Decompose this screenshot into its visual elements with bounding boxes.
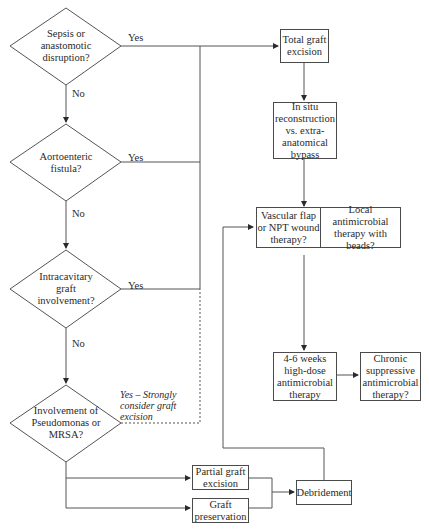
decision-aortoenteric: Aortoenteric fistula? [30,150,102,176]
box-vascular-flap: Vascular flap or NPT wound therapy? [256,207,321,248]
box-chronic-suppressive: Chronic suppressive antimicrobial therap… [360,352,421,401]
yes-label-1: Yes [128,32,143,44]
decision-intracavitary: Intracavitary graft involvement? [30,270,102,308]
yes-label-2: Yes [128,152,143,164]
box-graft-preservation: Graft preservation [192,498,249,523]
box-total-graft-excision: Total graft excision [280,29,329,63]
no-label-3: No [72,338,85,350]
box-partial-graft-excision: Partial graft excision [192,465,249,490]
yes-label-3: Yes [128,280,143,292]
no-label-2: No [72,208,85,220]
box-reconstruction: In situ reconstruction vs. extra-anatomi… [273,102,337,159]
box-local-antimicrobial: Local antimicrobial therapy with beads? [320,207,401,248]
flowchart-connectors [0,0,429,530]
yes-label-4: Yes – Strongly consider graft excision [120,389,190,422]
box-debridement: Debridement [296,480,352,505]
decision-sepsis: Sepsis or anastomotic disruption? [30,28,102,64]
box-high-dose-antimicrobial: 4-6 weeks high-dose antimicrobial therap… [273,352,337,401]
decision-pseudomonas-mrsa: Involvement of Pseudomonas or MRSA? [28,404,104,442]
no-label-1: No [72,88,85,100]
